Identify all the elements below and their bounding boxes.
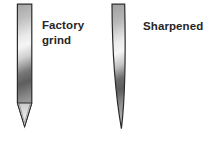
sharpened-blade-icon	[112, 4, 125, 128]
label-sharpened: Sharpened	[143, 19, 203, 34]
factory-grind-blade-icon	[17, 4, 31, 126]
label-factory-grind: Factory grind	[42, 18, 92, 48]
blade-comparison-figure: Factory grind Sharpened	[0, 0, 215, 143]
